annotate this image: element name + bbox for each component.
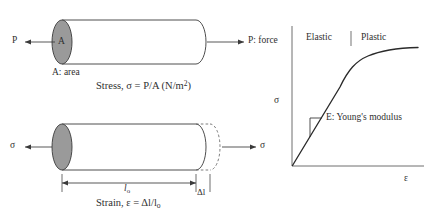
strain-formula-subscript: o: [157, 201, 161, 210]
elongation-end-dash: [210, 124, 220, 170]
stress-formula: Stress, σ = P/A (N/m2): [96, 80, 191, 92]
original-length-label: lo: [124, 184, 130, 194]
strain-formula-main: Strain, ε = Δl/l: [96, 197, 157, 208]
y-axis-label: σ: [274, 96, 279, 106]
dim-arrowhead-right: [190, 181, 196, 186]
stress-formula-tail: ): [188, 80, 192, 91]
sigma-left-label: σ: [10, 141, 15, 151]
sigma-left-arrowhead: [25, 145, 31, 150]
elongation-label: Δl: [197, 188, 205, 197]
strain-formula: Strain, ε = Δl/lo: [96, 198, 161, 209]
figure-root: A P P: force A: area Stress, σ = P/A (N/…: [0, 0, 436, 220]
youngs-modulus-label: E: Young's modulus: [326, 113, 402, 123]
graph-drawing: [262, 8, 436, 204]
cap-area-label: A: [58, 37, 65, 47]
stress-strain-graph: σ ε Elastic Plastic E: Young's modulus: [262, 8, 436, 204]
original-length-subscript: o: [127, 187, 130, 194]
stress-strain-curve: [293, 48, 419, 166]
strain-cylinder-right-end: [196, 124, 206, 170]
sigma-right-arrowhead: [250, 145, 256, 150]
cylinder-right-end: [196, 20, 206, 64]
dim-arrowhead-left: [62, 181, 68, 186]
area-caption: A: area: [52, 68, 80, 78]
force-left-arrowhead: [25, 39, 31, 44]
x-axis-label: ε: [404, 174, 408, 184]
stress-formula-main: Stress, σ = P/A (N/m: [96, 80, 184, 91]
force-right-arrowhead: [238, 39, 244, 44]
strain-cylinder-left-cap: [52, 124, 72, 170]
elastic-region-label: Elastic: [306, 33, 332, 43]
force-left-label: P: [12, 36, 17, 46]
plastic-region-label: Plastic: [361, 33, 386, 43]
